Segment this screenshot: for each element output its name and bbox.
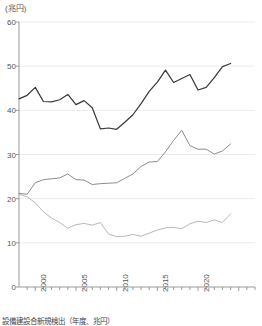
chart-caption: 設備建設合新規検出（年度、兆円） xyxy=(2,315,114,326)
series-line-1 xyxy=(19,64,231,130)
series-line-3 xyxy=(19,194,231,236)
series-line-2 xyxy=(19,130,231,194)
chart-container: (兆円) 0102030405060 20002005201020152020 … xyxy=(0,0,262,326)
chart-plot-area xyxy=(0,0,262,326)
